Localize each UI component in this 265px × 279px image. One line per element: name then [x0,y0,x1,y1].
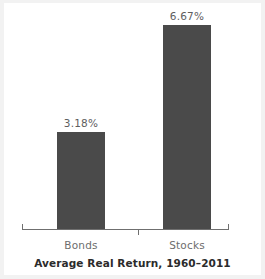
category-labels: Bonds Stocks [4,239,261,255]
category-label-stocks: Stocks [132,239,242,251]
bar-value-label-stocks: 6.67% [170,10,204,22]
axis-tick-left [22,224,23,230]
chart-title: Average Real Return, 1960–2011 [4,257,261,269]
axis-tick-center [138,229,139,235]
chart-figure: 3.18% 6.67% Bonds Stocks Average Real Re… [4,3,261,275]
x-axis-line [22,229,229,230]
bar-stocks[interactable] [163,25,211,229]
plot-area: 3.18% 6.67% [4,3,261,229]
axis-tick-right [228,224,229,230]
bar-value-label-bonds: 3.18% [64,117,98,129]
bar-bonds[interactable] [57,132,105,229]
category-label-bonds: Bonds [26,239,136,251]
